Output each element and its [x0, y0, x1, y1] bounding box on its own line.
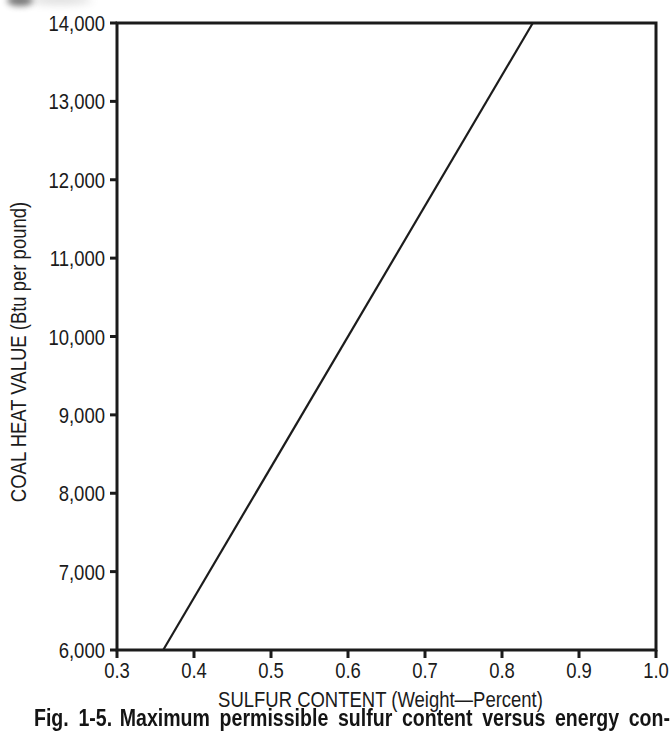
y-axis-title: COAL HEAT VALUE (Btu per pound) [6, 202, 31, 502]
y-tick-label: 6,000 [59, 638, 105, 663]
y-tick-label: 10,000 [49, 325, 106, 350]
x-tick-label: 0.5 [258, 658, 284, 683]
y-tick-label: 11,000 [50, 246, 105, 271]
x-tick-label: 0.6 [335, 658, 361, 683]
y-tick-label: 14,000 [49, 11, 106, 36]
y-tick-label: 13,000 [49, 89, 106, 114]
y-tick-label: 8,000 [59, 481, 105, 506]
x-tick-label: 1.0 [643, 658, 669, 683]
chart-svg: 0.30.40.50.60.70.80.91.06,0007,0008,0009… [0, 0, 670, 712]
y-tick-label: 7,000 [59, 560, 105, 585]
figure-caption-label: Fig. 1-5. [34, 705, 112, 731]
x-tick-label: 0.9 [566, 658, 592, 683]
x-tick-label: 0.7 [412, 658, 438, 683]
plot-border [117, 23, 656, 650]
figure-caption-line: Fig. 1-5.Maximum permissible sulfur cont… [34, 707, 670, 730]
x-tick-label: 0.4 [181, 658, 207, 683]
figure-caption-text: Maximum permissible sulfur content versu… [120, 705, 670, 731]
x-tick-label: 0.8 [489, 658, 515, 683]
y-tick-label: 12,000 [49, 168, 106, 193]
x-tick-label: 0.3 [104, 658, 130, 683]
data-line [163, 23, 533, 650]
y-tick-label: 9,000 [59, 403, 105, 428]
figure-caption: Fig. 1-5.Maximum permissible sulfur cont… [0, 707, 670, 730]
